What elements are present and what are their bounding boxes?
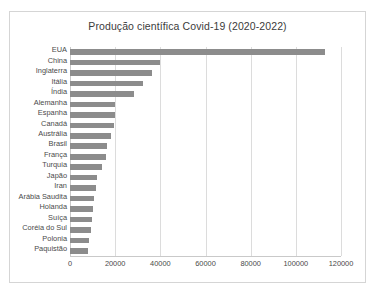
bar-row: Suíça — [70, 214, 341, 224]
x-axis-line — [70, 256, 341, 257]
category-label: Arábia Saudita — [19, 192, 67, 202]
bar-row: Inglaterra — [70, 68, 341, 78]
bar — [70, 112, 115, 118]
bar — [70, 175, 97, 181]
bar-row: Itália — [70, 78, 341, 88]
category-label: Alemanha — [34, 98, 67, 108]
bar — [70, 60, 160, 66]
category-label: Canadá — [41, 119, 67, 129]
category-label: EUA — [52, 45, 67, 55]
bar — [70, 238, 89, 244]
category-label: Austrália — [38, 129, 67, 139]
category-label: França — [44, 150, 67, 160]
bar-row: Coréia do Sul — [70, 225, 341, 235]
category-label: Espanha — [38, 108, 67, 118]
bar-row: Alemanha — [70, 99, 341, 109]
category-label: China — [48, 56, 67, 66]
category-label: Iran — [54, 181, 67, 191]
bar-row: França — [70, 152, 341, 162]
category-label: Polonia — [42, 234, 67, 244]
bar-row: Paquistão — [70, 246, 341, 256]
bar-row: Espanha — [70, 110, 341, 120]
bar-row: EUA — [70, 47, 341, 57]
bar — [70, 91, 134, 97]
bar — [70, 133, 111, 139]
x-tick-label: 20000 — [105, 259, 126, 268]
bar-row: Índia — [70, 89, 341, 99]
category-label: Brasil — [49, 139, 67, 149]
bar — [70, 227, 91, 233]
bar-row: Arábia Saudita — [70, 193, 341, 203]
bar — [70, 206, 93, 212]
bar-row: Brasil — [70, 141, 341, 151]
category-label: Japão — [47, 171, 67, 181]
bar-row: Polonia — [70, 235, 341, 245]
plot-area: EUAChinaInglaterraItáliaÍndiaAlemanhaEsp… — [70, 47, 341, 256]
category-label: Itália — [51, 77, 67, 87]
bar-row: Japão — [70, 172, 341, 182]
x-tick-label: 0 — [68, 259, 72, 268]
bar-row: Canadá — [70, 120, 341, 130]
bar — [70, 143, 107, 149]
bar — [70, 164, 102, 170]
category-label: Paquistão — [34, 244, 67, 254]
bar — [70, 123, 114, 129]
x-tick-label: 40000 — [150, 259, 171, 268]
bar-series: EUAChinaInglaterraItáliaÍndiaAlemanhaEsp… — [70, 47, 341, 256]
bar — [70, 217, 92, 223]
category-label: Inglaterra — [36, 66, 67, 76]
bar — [70, 248, 88, 254]
category-label: Índia — [51, 87, 67, 97]
bar — [70, 70, 152, 76]
category-label: Coréia do Sul — [22, 223, 67, 233]
bar-row: Austrália — [70, 131, 341, 141]
category-label: Suíça — [48, 213, 67, 223]
x-tick-label: 80000 — [240, 259, 261, 268]
bar — [70, 102, 115, 108]
x-tick-label: 60000 — [195, 259, 216, 268]
category-label: Turquia — [42, 160, 67, 170]
bar-row: Holanda — [70, 204, 341, 214]
bar — [70, 196, 94, 202]
bar — [70, 49, 325, 55]
x-axis-tick-labels: 020000400006000080000100000120000 — [70, 259, 341, 273]
category-label: Holanda — [39, 202, 67, 212]
x-tick-label: 120000 — [329, 259, 354, 268]
bar — [70, 154, 106, 160]
x-tick-label: 100000 — [283, 259, 308, 268]
bar — [70, 185, 96, 191]
chart-container: Produção científica Covid-19 (2020-2022)… — [9, 11, 366, 283]
bar-row: Turquia — [70, 162, 341, 172]
bar-row: China — [70, 57, 341, 67]
bar-row: Iran — [70, 183, 341, 193]
gridline — [341, 47, 342, 256]
bar — [70, 81, 143, 87]
